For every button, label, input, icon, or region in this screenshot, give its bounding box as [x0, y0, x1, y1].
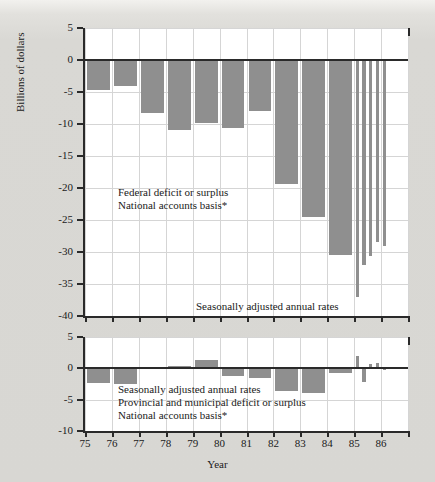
y-tick-label: -40 — [43, 310, 73, 321]
gridline-v — [166, 28, 167, 316]
gridline-v — [85, 28, 86, 316]
bar-80 — [222, 368, 245, 376]
y-axis-bottom — [83, 337, 85, 431]
x-tick-mark — [354, 431, 356, 437]
bar-85Q2 — [362, 60, 365, 265]
x-tick-label: 84 — [315, 437, 339, 449]
gridline-v — [112, 337, 113, 431]
bar-76 — [114, 60, 137, 86]
y-tick-mark — [77, 367, 83, 369]
bar-81 — [249, 368, 272, 377]
y-axis-title: Billions of dollars — [14, 33, 26, 112]
gridline-v — [220, 28, 221, 316]
y-tick-label: -30 — [43, 246, 73, 257]
gridline-h — [85, 92, 408, 93]
bar-76 — [114, 368, 137, 384]
annotation-provincial-sar: Seasonally adjusted annual rates — [118, 383, 261, 397]
gridline-v — [139, 28, 140, 316]
x-tick-mark — [139, 431, 141, 437]
bar-83 — [302, 60, 325, 217]
bar-75 — [87, 60, 110, 90]
bar-79 — [195, 60, 218, 123]
zero-line-top — [85, 59, 408, 61]
x-tick-mark — [273, 316, 275, 322]
bar-86Q1 — [383, 60, 386, 246]
bar-78 — [168, 60, 191, 130]
y-tick-mark — [77, 336, 83, 338]
gridline-v — [300, 337, 301, 431]
y-tick-mark — [77, 315, 83, 317]
y-tick-label: 0 — [43, 54, 73, 65]
x-tick-mark — [85, 431, 87, 437]
x-tick-mark — [220, 431, 222, 437]
annotation-federal-sar: Seasonally adjusted annual rates — [196, 300, 339, 314]
bar-83 — [302, 368, 325, 393]
x-tick-mark — [247, 316, 249, 322]
gridline-v — [354, 337, 355, 431]
x-tick-mark — [112, 316, 114, 322]
axis-cap-top — [408, 337, 410, 345]
bar-77 — [141, 60, 164, 113]
y-tick-mark — [77, 123, 83, 125]
y-tick-mark — [77, 399, 83, 401]
x-tick-label: 79 — [181, 437, 205, 449]
annotation-federal-title: Federal deficit or surplus — [118, 186, 228, 200]
gridline-v — [247, 28, 248, 316]
y-tick-label: -5 — [43, 86, 73, 97]
x-tick-mark — [112, 431, 114, 437]
x-tick-label: 81 — [235, 437, 259, 449]
gridline-h — [85, 124, 408, 125]
y-tick-label: -20 — [43, 182, 73, 193]
bar-82 — [275, 60, 298, 184]
gridline-h — [85, 284, 408, 285]
y-tick-mark — [77, 251, 83, 253]
y-tick-label: 5 — [43, 22, 73, 33]
y-tick-labels-bottom: 50-5-10 — [43, 337, 73, 431]
y-tick-mark — [77, 155, 83, 157]
x-tick-mark — [139, 316, 141, 322]
gridline-v — [85, 337, 86, 431]
y-tick-mark — [77, 430, 83, 432]
x-tick-label: 80 — [208, 437, 232, 449]
y-tick-label: -10 — [43, 425, 73, 436]
x-tick-label: 85 — [342, 437, 366, 449]
gridline-v — [112, 28, 113, 316]
x-tick-label: 83 — [288, 437, 312, 449]
x-tick-mark — [193, 316, 195, 322]
gridline-h — [85, 220, 408, 221]
gridline-v — [193, 28, 194, 316]
axis-cap-top — [408, 28, 410, 36]
y-tick-mark — [77, 283, 83, 285]
x-tick-mark — [247, 431, 249, 437]
x-tick-mark — [327, 431, 329, 437]
x-tick-label: 82 — [261, 437, 285, 449]
y-tick-mark — [77, 59, 83, 61]
y-tick-mark — [77, 187, 83, 189]
x-tick-mark — [166, 316, 168, 322]
annotation-federal-basis: National accounts basis* — [118, 199, 227, 213]
figure-root: Billions of dollars Federal deficit or s… — [0, 0, 435, 482]
bar-75 — [87, 368, 110, 383]
gridline-v — [381, 337, 382, 431]
bar-85Q3 — [369, 60, 372, 256]
bar-85Q4 — [376, 60, 379, 242]
y-tick-label: -15 — [43, 150, 73, 161]
annotation-provincial-basis: National accounts basis* — [118, 409, 227, 423]
x-tick-mark — [193, 431, 195, 437]
gridline-h — [85, 156, 408, 157]
x-tick-mark — [273, 431, 275, 437]
x-tick-mark — [408, 431, 410, 437]
bar-85Q2 — [362, 368, 365, 382]
gridline-h — [85, 28, 408, 29]
x-tick-label: 77 — [127, 437, 151, 449]
x-tick-label: 78 — [154, 437, 178, 449]
y-tick-mark — [77, 27, 83, 29]
y-tick-label: -25 — [43, 214, 73, 225]
x-tick-mark — [220, 316, 222, 322]
x-tick-mark — [300, 316, 302, 322]
x-tick-mark — [166, 431, 168, 437]
zero-line-bottom — [85, 367, 408, 369]
bar-84 — [329, 60, 352, 255]
bar-81 — [249, 60, 272, 111]
y-tick-mark — [77, 91, 83, 93]
